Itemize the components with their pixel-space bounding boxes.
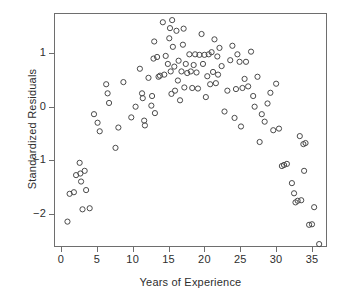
x-tick-mark bbox=[61, 247, 62, 252]
x-tick-label: 20 bbox=[192, 253, 216, 265]
x-tick-label: 35 bbox=[300, 253, 324, 265]
x-tick-label: 30 bbox=[264, 253, 288, 265]
x-tick-label: 5 bbox=[85, 253, 109, 265]
y-tick-mark bbox=[49, 214, 54, 215]
x-tick-mark bbox=[276, 247, 277, 252]
y-axis-title: Standardized Residuals bbox=[26, 44, 38, 214]
x-tick-mark bbox=[97, 247, 98, 252]
x-tick-mark bbox=[133, 247, 134, 252]
x-tick-label: 15 bbox=[157, 253, 181, 265]
x-tick-label: 0 bbox=[49, 253, 73, 265]
scatter-plot-figure: 05101520253035 10−1−2 Years of Experienc… bbox=[0, 0, 342, 302]
x-axis-title: Years of Experience bbox=[54, 276, 327, 288]
x-tick-mark bbox=[169, 247, 170, 252]
x-tick-label: 25 bbox=[228, 253, 252, 265]
y-tick-mark bbox=[49, 53, 54, 54]
y-tick-mark bbox=[49, 160, 54, 161]
x-tick-mark bbox=[312, 247, 313, 252]
x-tick-mark bbox=[240, 247, 241, 252]
y-tick-mark bbox=[49, 107, 54, 108]
x-tick-label: 10 bbox=[121, 253, 145, 265]
x-tick-mark bbox=[204, 247, 205, 252]
plot-area-frame bbox=[54, 13, 327, 247]
